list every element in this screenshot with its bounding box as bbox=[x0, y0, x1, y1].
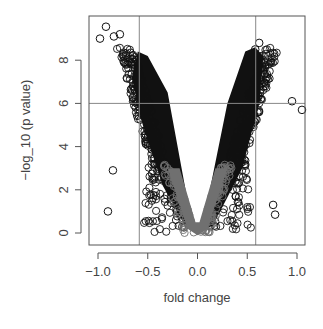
y-axis-title: −log_10 (p value) bbox=[18, 80, 33, 181]
y-tick-label: 0 bbox=[56, 229, 71, 236]
significant-points bbox=[96, 23, 306, 236]
outlier-point bbox=[271, 211, 279, 219]
x-axis-title: fold change bbox=[163, 290, 230, 305]
outlier-point bbox=[109, 167, 117, 175]
x-tick-label: 0.0 bbox=[188, 264, 206, 279]
volcano-plot: −1.0−0.50.00.51.0 02468 fold change −log… bbox=[0, 0, 323, 329]
x-tick-label: −1.0 bbox=[85, 264, 111, 279]
x-tick-label: 1.0 bbox=[288, 264, 306, 279]
outlier-point bbox=[104, 208, 112, 216]
x-tick-label: 0.5 bbox=[238, 264, 256, 279]
outlier-point bbox=[255, 39, 263, 47]
y-tick-label: 4 bbox=[56, 143, 71, 150]
outlier-point bbox=[269, 201, 277, 209]
outlier-point bbox=[102, 23, 110, 31]
y-axis: 02468 bbox=[56, 57, 81, 237]
x-tick-label: −0.5 bbox=[135, 264, 161, 279]
x-axis: −1.0−0.50.00.51.0 bbox=[85, 253, 306, 279]
outlier-point bbox=[96, 35, 104, 43]
y-tick-label: 2 bbox=[56, 186, 71, 193]
y-tick-label: 6 bbox=[56, 100, 71, 107]
y-tick-label: 8 bbox=[56, 57, 71, 64]
